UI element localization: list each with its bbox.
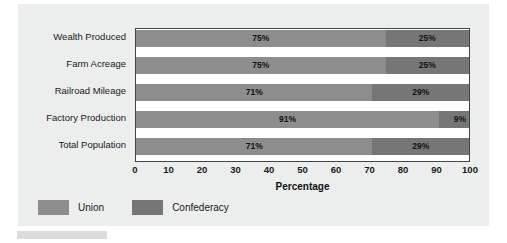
bar-segment-confederacy: 25%	[386, 57, 469, 74]
category-axis: Wealth Produced Farm Acreage Railroad Mi…	[18, 28, 132, 162]
figure-panel: Wealth Produced Farm Acreage Railroad Mi…	[18, 4, 489, 226]
confederacy-swatch-icon	[132, 200, 163, 215]
x-tick-0: 0	[132, 164, 137, 175]
x-tick-30: 30	[230, 164, 241, 175]
x-tick-70: 70	[364, 164, 375, 175]
x-tick-10: 10	[163, 164, 174, 175]
x-tick-50: 50	[297, 164, 308, 175]
bar-segment-union: 71%	[136, 138, 372, 155]
bar-value-confederacy: 25%	[386, 57, 469, 74]
bar-row-factory-production: 91% 9%	[136, 111, 469, 128]
bar-segment-confederacy: 25%	[386, 30, 469, 47]
bar-segment-union: 71%	[136, 84, 372, 101]
bar-value-union: 71%	[136, 84, 372, 101]
category-label-total-population: Total Population	[58, 138, 126, 152]
scan-artifact-bar	[17, 231, 107, 239]
category-label-railroad-mileage: Railroad Mileage	[55, 84, 126, 98]
category-label-farm-acreage: Farm Acreage	[66, 57, 126, 71]
legend-label-union: Union	[78, 202, 104, 213]
union-swatch-icon	[38, 200, 69, 215]
bar-segment-union: 75%	[136, 30, 386, 47]
stacked-bar-chart: Wealth Produced Farm Acreage Railroad Mi…	[18, 4, 489, 226]
bar-value-union: 75%	[136, 57, 386, 74]
bar-value-confederacy: 9%	[454, 111, 466, 128]
chart-legend: Union Confederacy	[38, 200, 257, 215]
category-label-factory-production: Factory Production	[46, 111, 126, 125]
chart-page: Wealth Produced Farm Acreage Railroad Mi…	[0, 0, 507, 243]
bar-segment-confederacy: 29%	[372, 138, 469, 155]
category-label-wealth-produced: Wealth Produced	[53, 30, 126, 44]
legend-item-union: Union	[38, 200, 104, 215]
x-tick-100: 100	[462, 164, 478, 175]
bar-value-union: 71%	[136, 138, 372, 155]
x-tick-20: 20	[197, 164, 208, 175]
x-tick-90: 90	[431, 164, 442, 175]
bar-row-railroad-mileage: 71% 29%	[136, 84, 469, 101]
bar-segment-union: 75%	[136, 57, 386, 74]
bar-segment-union: 91%	[136, 111, 439, 128]
bar-value-union: 91%	[136, 111, 439, 128]
plot-area: 75% 25% 75% 25%	[135, 28, 470, 162]
bar-value-confederacy: 29%	[372, 84, 469, 101]
bar-row-total-population: 71% 29%	[136, 138, 469, 155]
legend-item-confederacy: Confederacy	[132, 200, 229, 215]
x-tick-40: 40	[264, 164, 275, 175]
bar-value-confederacy: 29%	[372, 138, 469, 155]
legend-label-confederacy: Confederacy	[172, 202, 229, 213]
bar-segment-confederacy: 29%	[372, 84, 469, 101]
bar-segment-confederacy: 9%	[439, 111, 469, 128]
plot-inner: 75% 25% 75% 25%	[136, 29, 469, 161]
x-axis: 0 10 20 30 40 50 60 70 80 90 100	[135, 164, 470, 180]
bar-value-union: 75%	[136, 30, 386, 47]
x-tick-60: 60	[331, 164, 342, 175]
x-tick-80: 80	[398, 164, 409, 175]
bar-value-confederacy: 25%	[386, 30, 469, 47]
x-axis-title: Percentage	[135, 181, 470, 192]
bar-row-wealth-produced: 75% 25%	[136, 30, 469, 47]
bar-row-farm-acreage: 75% 25%	[136, 57, 469, 74]
